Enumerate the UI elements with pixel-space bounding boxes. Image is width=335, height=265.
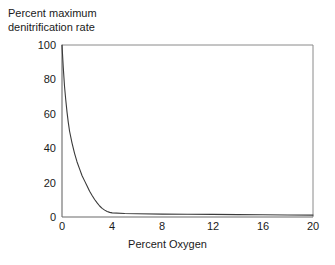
plot-background — [62, 45, 313, 217]
x-tick-label-0: 0 — [47, 220, 77, 232]
y-tick-label-60: 60 — [26, 108, 56, 120]
x-tick-label-16: 16 — [248, 220, 278, 232]
x-tick-label-4: 4 — [97, 220, 127, 232]
x-tick-label-20: 20 — [298, 220, 328, 232]
x-tick-label-8: 8 — [147, 220, 177, 232]
y-tick-label-100: 100 — [26, 39, 56, 51]
chart-figure: Percent maximum denitrification rate 100… — [0, 0, 335, 265]
x-axis-title: Percent Oxygen — [0, 238, 335, 250]
x-tick-label-12: 12 — [198, 220, 228, 232]
y-tick-label-40: 40 — [26, 142, 56, 154]
y-tick-label-20: 20 — [26, 177, 56, 189]
y-tick-label-80: 80 — [26, 73, 56, 85]
